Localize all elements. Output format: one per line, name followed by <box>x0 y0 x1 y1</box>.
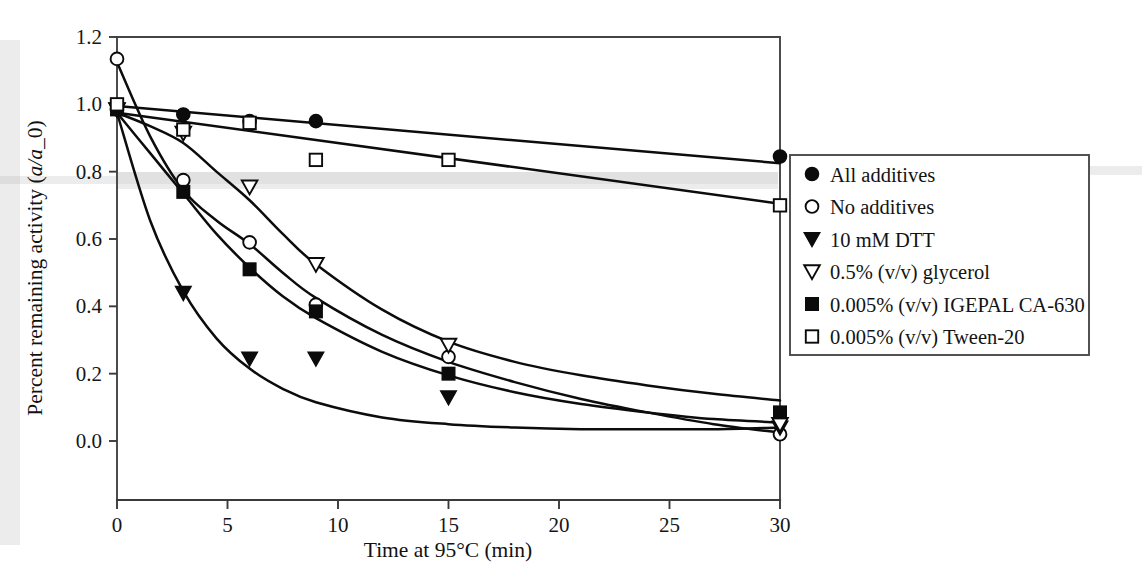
x-tick-label: 20 <box>549 513 570 537</box>
data-point-filled-square <box>442 367 455 380</box>
data-point-open-circle <box>111 52 124 65</box>
legend-marker-open-circle <box>806 200 819 213</box>
scatter-chart: 051015202530 0.00.20.40.60.81.01.2 Time … <box>0 0 1145 585</box>
y-axis-title-text: Percent remaining activity (a/a_0) <box>23 120 47 416</box>
data-point-open-square <box>442 154 454 166</box>
y-tick-label: 1.2 <box>76 25 102 49</box>
data-point-open-circle <box>243 236 256 249</box>
legend-label: 0.005% (v/v) IGEPAL CA-630 <box>830 294 1085 317</box>
legend: All additivesNo additives10 mM DTT0.5% (… <box>790 155 1089 355</box>
data-point-filled-square <box>806 298 819 311</box>
data-point-filled-circle <box>309 115 322 128</box>
y-tick-label: 0.2 <box>76 362 102 386</box>
x-tick-label: 15 <box>438 513 459 537</box>
legend-marker-filled-square <box>806 298 819 311</box>
y-tick-label: 0.0 <box>76 429 102 453</box>
x-tick-label: 25 <box>659 513 680 537</box>
y-tick-label: 1.0 <box>76 92 102 116</box>
y-tick-label: 0.6 <box>76 227 102 251</box>
x-tick-label: 30 <box>770 513 791 537</box>
x-tick-label: 5 <box>222 513 233 537</box>
y-tick-label: 0.4 <box>76 294 103 318</box>
x-axis-title: Time at 95°C (min) <box>364 538 532 562</box>
data-point-filled-circle <box>805 167 818 180</box>
figure-container: 051015202530 0.00.20.40.60.81.01.2 Time … <box>0 0 1145 585</box>
data-point-open-square <box>806 330 818 342</box>
data-point-open-square <box>177 123 189 135</box>
legend-label: No additives <box>830 196 934 218</box>
data-point-open-square <box>310 154 322 166</box>
legend-item[interactable]: 0.005% (v/v) IGEPAL CA-630 <box>806 294 1085 317</box>
data-point-open-square <box>774 199 786 211</box>
data-point-open-square <box>243 117 255 129</box>
data-point-open-circle <box>806 200 819 213</box>
data-point-open-circle <box>177 174 190 187</box>
legend-item[interactable]: 0.005% (v/v) Tween-20 <box>806 326 1025 349</box>
legend-label: 0.5% (v/v) glycerol <box>830 261 990 284</box>
x-tick-label: 0 <box>112 513 123 537</box>
data-point-filled-square <box>243 263 256 276</box>
data-point-filled-circle <box>177 108 190 121</box>
legend-item[interactable]: 0.5% (v/v) glycerol <box>804 261 990 284</box>
y-tick-label: 0.8 <box>76 160 102 184</box>
data-point-open-square <box>111 98 123 110</box>
data-point-filled-square <box>177 186 190 199</box>
data-point-filled-circle <box>773 150 786 163</box>
legend-marker-filled-circle <box>805 167 818 180</box>
x-tick-label: 10 <box>328 513 349 537</box>
legend-marker-open-square <box>806 330 818 342</box>
y-axis-title: Percent remaining activity (a/a_0) <box>23 120 47 416</box>
legend-label: 0.005% (v/v) Tween-20 <box>830 326 1025 349</box>
legend-label: All additives <box>830 164 935 186</box>
data-point-filled-square <box>310 305 323 318</box>
legend-label: 10 mM DTT <box>830 229 935 251</box>
data-point-filled-square <box>774 406 787 419</box>
